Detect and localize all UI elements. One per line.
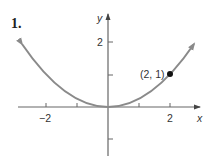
y-ticks bbox=[108, 42, 113, 139]
x-tick-label-2: 2 bbox=[167, 112, 173, 124]
y-tick-label-2: 2 bbox=[97, 36, 103, 48]
x-axis-label: x bbox=[196, 112, 203, 124]
point-2-1 bbox=[167, 71, 173, 77]
parabola-graph: −2 2 x y 2 (2, 1) bbox=[0, 0, 214, 156]
y-axis-label: y bbox=[96, 12, 103, 24]
point-label: (2, 1) bbox=[140, 68, 165, 80]
x-tick-label-neg2: −2 bbox=[39, 112, 51, 124]
